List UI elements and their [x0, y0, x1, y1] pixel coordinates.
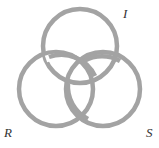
borromean-diagram: I R S: [0, 0, 159, 148]
label-r: R: [4, 125, 12, 141]
label-s: S: [146, 125, 153, 141]
label-i: I: [123, 6, 127, 22]
ring-i: [43, 9, 117, 83]
ring-s: [66, 52, 140, 126]
rings-graphic: [0, 0, 159, 148]
